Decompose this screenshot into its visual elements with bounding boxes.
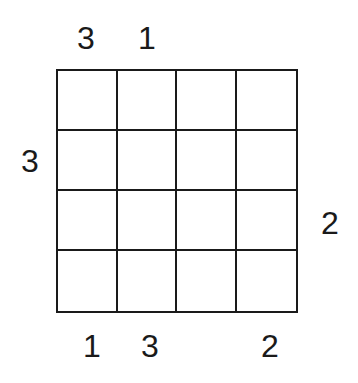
puzzle-grid [56,69,298,313]
grid-cell-r1c3[interactable] [177,71,237,131]
grid-cell-r4c2[interactable] [118,251,178,311]
grid-cell-r4c4[interactable] [237,251,297,311]
clue-bottom-4: 2 [250,330,290,362]
grid-cell-r2c3[interactable] [177,131,237,191]
grid-cell-r1c2[interactable] [118,71,178,131]
grid-cell-r3c2[interactable] [118,191,178,251]
grid-cell-r4c3[interactable] [177,251,237,311]
clue-bottom-1: 1 [72,330,112,362]
grid-cell-r4c1[interactable] [58,251,118,311]
grid-cell-r3c1[interactable] [58,191,118,251]
grid-cell-r2c2[interactable] [118,131,178,191]
grid-cell-r1c1[interactable] [58,71,118,131]
grid-cell-r2c1[interactable] [58,131,118,191]
clue-top-1: 3 [66,22,106,54]
clue-left-2: 3 [10,145,50,177]
clue-top-2: 1 [127,22,167,54]
clue-right-3: 2 [310,207,350,239]
grid-cell-r3c4[interactable] [237,191,297,251]
clue-bottom-2: 3 [130,330,170,362]
grid-cell-r1c4[interactable] [237,71,297,131]
grid-cell-r2c4[interactable] [237,131,297,191]
grid-cell-r3c3[interactable] [177,191,237,251]
